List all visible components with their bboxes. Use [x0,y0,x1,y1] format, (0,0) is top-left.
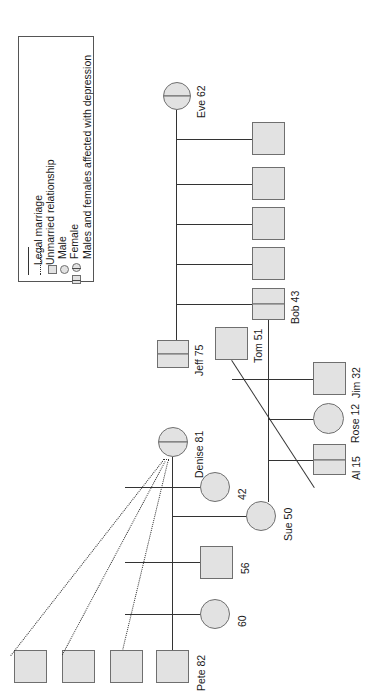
person-node-eve-child-4[interactable] [252,247,285,280]
unmarried-line-denise-partner-3 [10,458,165,656]
person-node-denise[interactable] [158,427,188,457]
eve-jeff-marriage-line [176,110,177,352]
person-node-eve-child-1[interactable] [252,122,285,155]
bob-child-connector-jim [268,379,316,380]
legend-symbol-affected-circle [72,263,81,272]
person-node-al[interactable] [313,444,346,475]
denise-child-connector-56 [125,562,202,563]
person-label-rose: Rose 12 [350,404,361,443]
eve-child-connector-2 [176,184,254,185]
person-node-eve-child-3[interactable] [252,207,285,240]
legend-label-unmarried-relationship: Unmarried relationship [45,159,56,265]
bob-child-connector-rose [268,419,316,420]
unmarried-line-denise-partner-2 [62,459,167,655]
person-node-jim[interactable] [313,362,346,395]
person-label-tom: Tom 51 [253,329,264,363]
person-label-al: Al 15 [351,456,362,480]
person-label-age-60: 60 [237,615,248,627]
bob-descent-line [268,320,269,502]
eve-child-connector-3 [176,224,254,225]
legend-label-legal-marriage: Legal marriage [33,195,44,265]
person-label-jim: Jim 32 [351,367,362,398]
person-node-sue[interactable] [246,501,276,531]
person-node-bob[interactable] [252,288,285,320]
person-node-eve[interactable] [163,82,191,110]
bob-child-connector-al [268,460,316,461]
eve-child-connector-1 [176,139,254,140]
person-label-bob: Bob 43 [290,291,301,324]
person-node-denise-partner-1[interactable] [110,650,143,683]
legend-symbol-male-square [48,265,57,274]
denise-child-connector-sue [172,516,248,517]
person-node-jeff[interactable] [157,340,189,368]
person-node-age-56[interactable] [200,546,233,579]
genogram-canvas: Legal marriage Unmarried relationship Ma… [0,0,367,699]
person-node-pete[interactable] [156,650,189,683]
legend-symbol-affected-square [72,275,81,284]
person-node-denise-partner-3[interactable] [14,650,47,683]
person-label-age-42: 42 [237,488,248,500]
denise-child-connector-42 [125,487,202,488]
person-label-denise: Denise 81 [194,431,205,478]
person-label-eve: Eve 62 [196,85,207,118]
person-label-pete: Pete 82 [196,655,207,691]
eve-child-connector-bob [176,304,254,305]
legend-label-female: Female [69,224,80,259]
person-node-eve-child-2[interactable] [252,167,285,200]
person-node-rose[interactable] [313,403,344,434]
legend-box: Legal marriage Unmarried relationship Ma… [18,36,94,282]
person-node-age-42[interactable] [200,472,230,502]
person-node-tom[interactable] [215,327,248,360]
denise-child-connector-60 [125,614,202,615]
legend-symbol-female-circle [60,265,69,274]
legend-label-affected: Males and females affected with depressi… [82,55,93,259]
legend-label-male: Male [57,236,68,259]
person-label-jeff: Jeff 75 [194,345,205,376]
person-label-sue: Sue 50 [283,508,294,541]
person-node-denise-partner-2[interactable] [62,650,95,683]
person-node-age-60[interactable] [200,599,230,629]
person-label-age-56: 56 [240,562,251,574]
eve-child-connector-4 [176,264,254,265]
legend-symbol-solid-line [28,247,29,275]
